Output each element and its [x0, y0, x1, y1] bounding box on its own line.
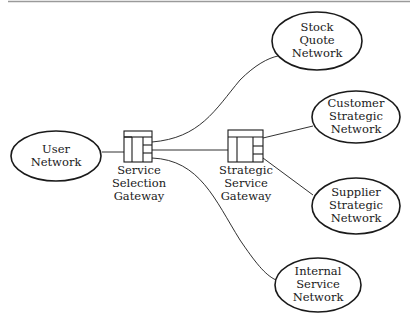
internal-service-network-label: Internal Service Network: [293, 265, 344, 304]
service-selection-gateway-label: Service Selection Gateway: [112, 164, 166, 203]
label-line: Network: [293, 291, 344, 304]
label-line: Network: [292, 47, 343, 60]
label-line: Gateway: [219, 190, 273, 203]
label-line: Network: [328, 123, 385, 136]
label-line: Network: [329, 212, 383, 225]
customer-strategic-network-label: Customer Strategic Network: [328, 97, 385, 136]
supplier-strategic-network-label: Supplier Strategic Network: [329, 186, 383, 225]
strategic-service-gateway-label: Strategic Service Gateway: [219, 164, 273, 203]
strategic-service-gateway-icon: [228, 130, 263, 162]
connector-strategic-customer: [263, 126, 313, 138]
label-line: Gateway: [112, 190, 166, 203]
service-selection-gateway-icon: [124, 131, 152, 162]
user-network-label: User Network: [31, 143, 82, 169]
stock-quote-network-label: Stock Quote Network: [292, 21, 343, 60]
connector-ssg-stock: [152, 56, 278, 142]
label-line: Network: [31, 156, 82, 169]
